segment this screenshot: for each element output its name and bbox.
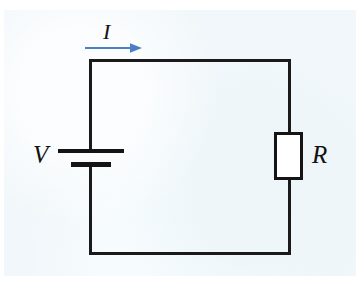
voltage-label: V — [33, 142, 48, 167]
wire-left-lower — [89, 165, 92, 255]
circuit-diagram-canvas: V R I — [0, 0, 360, 283]
wire-left-upper — [89, 59, 92, 152]
current-label: I — [103, 21, 110, 43]
current-direction-arrow-icon — [84, 40, 144, 56]
wire-top — [89, 59, 291, 62]
wire-bottom — [89, 252, 291, 255]
battery-negative-plate — [71, 162, 111, 167]
diagram-paper-background — [4, 10, 356, 276]
resistor-symbol — [274, 132, 303, 180]
wire-right-lower — [288, 179, 291, 255]
wire-right-upper — [288, 59, 291, 133]
resistance-label: R — [312, 142, 327, 167]
battery-positive-plate — [58, 149, 124, 153]
